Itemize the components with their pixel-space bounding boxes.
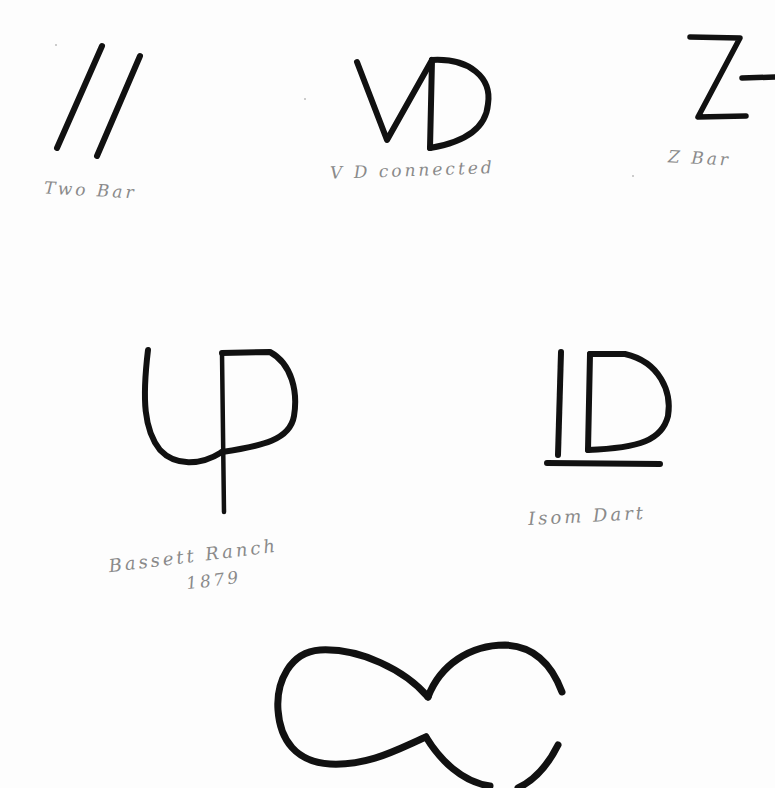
vd-connected-brand-icon	[357, 60, 488, 148]
speck	[304, 98, 306, 100]
two-bar-brand-icon	[57, 46, 140, 156]
isom-dart-brand-icon	[547, 352, 669, 464]
speck	[55, 44, 57, 46]
z-bar-label: Z Bar	[668, 146, 732, 169]
bassett-ranch-brand-icon	[145, 350, 295, 512]
speck	[632, 175, 634, 177]
hog-eye-brand-icon	[278, 645, 562, 788]
brand-drawings	[0, 0, 775, 788]
z-bar-brand-icon	[690, 37, 775, 117]
